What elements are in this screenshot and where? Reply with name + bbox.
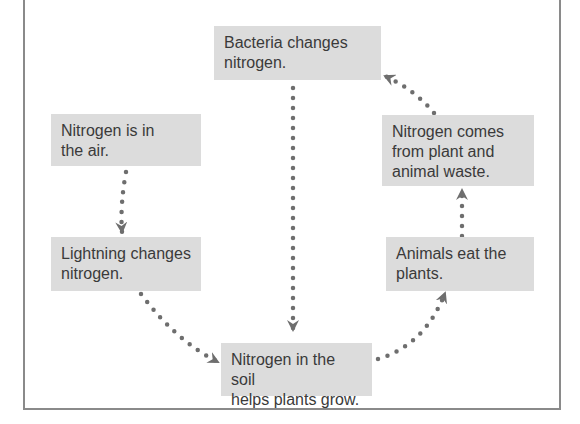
node-bacteria: Bacteria changes nitrogen. <box>214 26 381 80</box>
node-text: helps plants grow. <box>231 390 362 410</box>
node-text: Nitrogen in the soil <box>231 350 362 390</box>
node-animals: Animals eat the plants. <box>386 237 534 291</box>
node-text: nitrogen. <box>224 53 371 73</box>
node-air: Nitrogen is in the air. <box>51 114 201 166</box>
node-lightning: Lightning changes nitrogen. <box>51 237 201 291</box>
node-text: plants. <box>396 264 524 284</box>
node-text: Animals eat the <box>396 244 524 264</box>
arrow-air-to-lightning <box>122 172 127 232</box>
node-text: Bacteria changes <box>224 33 371 53</box>
node-text: from plant and <box>392 142 524 162</box>
node-text: the air. <box>61 141 191 161</box>
node-text: Lightning changes <box>61 244 191 264</box>
node-waste: Nitrogen comes from plant and animal was… <box>382 115 534 186</box>
node-soil: Nitrogen in the soil helps plants grow. <box>221 343 372 396</box>
arrow-lightning-to-soil <box>141 294 218 362</box>
arrow-waste-to-bacteria <box>385 76 434 113</box>
node-text: Nitrogen is in <box>61 121 191 141</box>
arrow-soil-to-animals <box>378 293 445 359</box>
node-text: Nitrogen comes <box>392 122 524 142</box>
node-text: nitrogen. <box>61 264 191 284</box>
node-text: animal waste. <box>392 162 524 182</box>
